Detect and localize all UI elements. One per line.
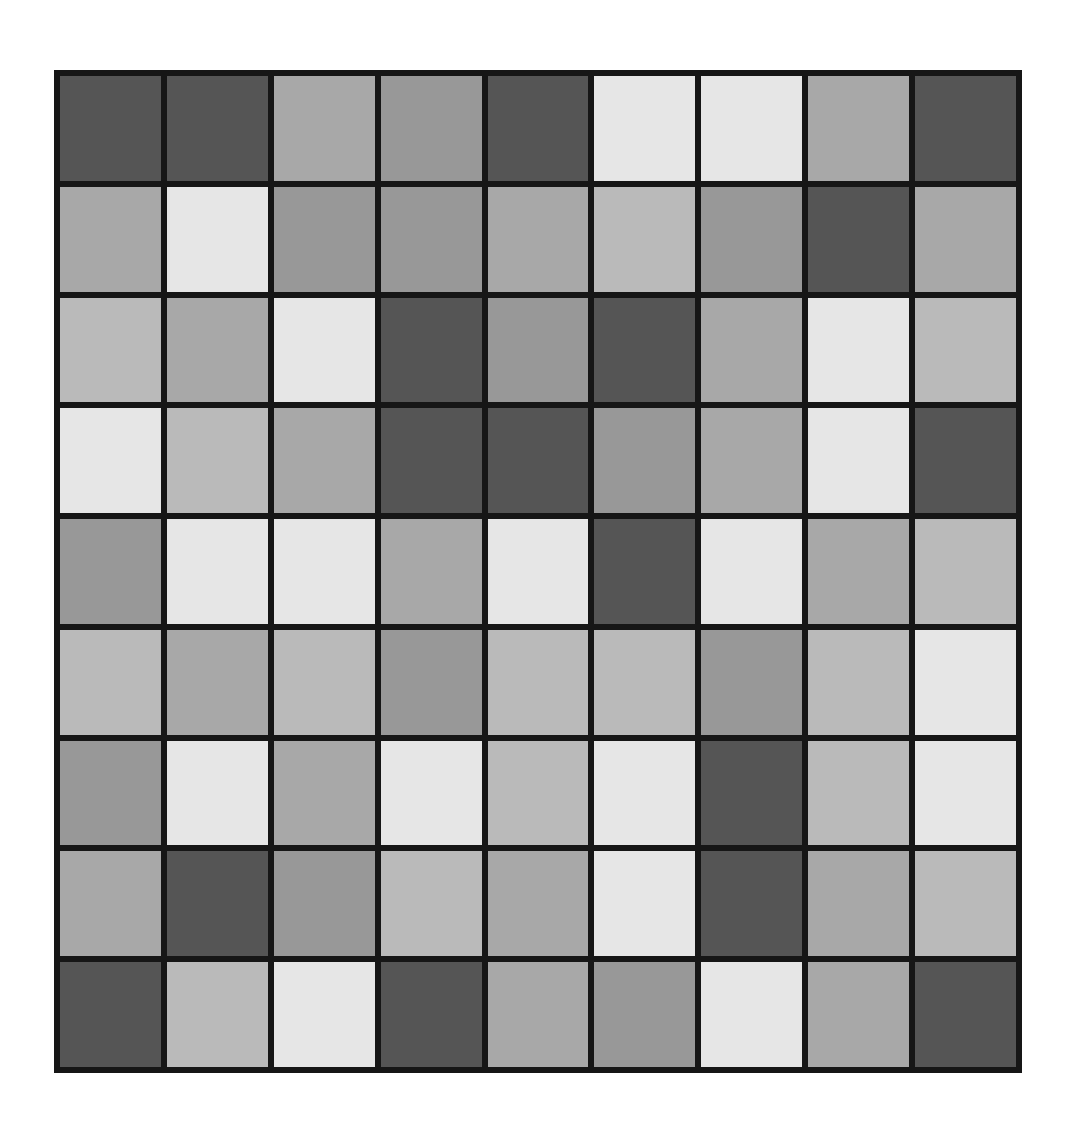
grid-cell-r9-c9 <box>915 962 1016 1067</box>
grid-cell-r7-c1 <box>60 741 161 846</box>
grid-cell-r3-c4 <box>381 298 482 403</box>
grid-cell-r6-c5 <box>488 630 589 735</box>
grid-cell-r4-c7 <box>701 408 802 513</box>
grid-cell-r5-c6 <box>594 519 695 624</box>
grid-cell-r5-c8 <box>808 519 909 624</box>
grid-cell-r8-c1 <box>60 851 161 956</box>
grid-cell-r3-c7 <box>701 298 802 403</box>
grid-cell-r4-c3 <box>274 408 375 513</box>
grid-cell-r6-c4 <box>381 630 482 735</box>
grid-cell-r2-c8 <box>808 187 909 292</box>
grid-cell-r7-c6 <box>594 741 695 846</box>
grid-cell-r8-c6 <box>594 851 695 956</box>
grid-cell-r5-c9 <box>915 519 1016 624</box>
grid-cell-r6-c2 <box>167 630 268 735</box>
grid-cell-r5-c2 <box>167 519 268 624</box>
grid-cell-r4-c4 <box>381 408 482 513</box>
grid-cell-r2-c6 <box>594 187 695 292</box>
grid-cell-r8-c3 <box>274 851 375 956</box>
grid-cell-r2-c3 <box>274 187 375 292</box>
grid-cell-r5-c7 <box>701 519 802 624</box>
grid-cell-r4-c5 <box>488 408 589 513</box>
grid-cell-r9-c5 <box>488 962 589 1067</box>
grid-cell-r9-c3 <box>274 962 375 1067</box>
grid-cell-r7-c3 <box>274 741 375 846</box>
grid-cell-r7-c8 <box>808 741 909 846</box>
grid-cell-r1-c7 <box>701 76 802 181</box>
grid-cell-r9-c4 <box>381 962 482 1067</box>
grid-cell-r2-c9 <box>915 187 1016 292</box>
grid-cell-r6-c8 <box>808 630 909 735</box>
grid-cell-r6-c1 <box>60 630 161 735</box>
grid-cell-r7-c2 <box>167 741 268 846</box>
grid-cell-r7-c4 <box>381 741 482 846</box>
grid-cell-r3-c8 <box>808 298 909 403</box>
grid-cell-r9-c1 <box>60 962 161 1067</box>
grid-cell-r9-c6 <box>594 962 695 1067</box>
grid-cell-r3-c1 <box>60 298 161 403</box>
grid-cell-r2-c4 <box>381 187 482 292</box>
grid-cell-r4-c1 <box>60 408 161 513</box>
grid-cell-r9-c7 <box>701 962 802 1067</box>
grid-cell-r9-c2 <box>167 962 268 1067</box>
grid-cell-r1-c6 <box>594 76 695 181</box>
grid-cell-r3-c3 <box>274 298 375 403</box>
grid-cell-r8-c4 <box>381 851 482 956</box>
grid-cell-r9-c8 <box>808 962 909 1067</box>
grid-cell-r3-c9 <box>915 298 1016 403</box>
grid-cell-r1-c8 <box>808 76 909 181</box>
grid-cell-r5-c5 <box>488 519 589 624</box>
grid-cell-r5-c4 <box>381 519 482 624</box>
grid-cell-r1-c4 <box>381 76 482 181</box>
grid-cell-r7-c5 <box>488 741 589 846</box>
grid-cell-r6-c9 <box>915 630 1016 735</box>
grid-cell-r1-c3 <box>274 76 375 181</box>
grid-cell-r8-c9 <box>915 851 1016 956</box>
grid-cell-r6-c6 <box>594 630 695 735</box>
grid-cell-r4-c6 <box>594 408 695 513</box>
grid-cell-r2-c2 <box>167 187 268 292</box>
grid-cell-r3-c5 <box>488 298 589 403</box>
grid-cell-r2-c5 <box>488 187 589 292</box>
grid-cell-r7-c9 <box>915 741 1016 846</box>
grid-cell-r8-c2 <box>167 851 268 956</box>
grid-cell-r8-c8 <box>808 851 909 956</box>
grid-cell-r2-c1 <box>60 187 161 292</box>
grid-cell-r4-c9 <box>915 408 1016 513</box>
grid-cell-r1-c5 <box>488 76 589 181</box>
grid-cell-r1-c9 <box>915 76 1016 181</box>
grid-cell-r6-c7 <box>701 630 802 735</box>
grid-cell-r6-c3 <box>274 630 375 735</box>
grid-cell-r8-c7 <box>701 851 802 956</box>
grid-cell-r3-c2 <box>167 298 268 403</box>
grayscale-grid <box>54 70 1022 1073</box>
grid-cell-r1-c1 <box>60 76 161 181</box>
grid-cell-r8-c5 <box>488 851 589 956</box>
grid-cell-r4-c8 <box>808 408 909 513</box>
grid-cell-r1-c2 <box>167 76 268 181</box>
grid-cell-r7-c7 <box>701 741 802 846</box>
grid-cell-r5-c1 <box>60 519 161 624</box>
grid-cell-r3-c6 <box>594 298 695 403</box>
grid-cell-r5-c3 <box>274 519 375 624</box>
grid-cell-r2-c7 <box>701 187 802 292</box>
grid-cell-r4-c2 <box>167 408 268 513</box>
